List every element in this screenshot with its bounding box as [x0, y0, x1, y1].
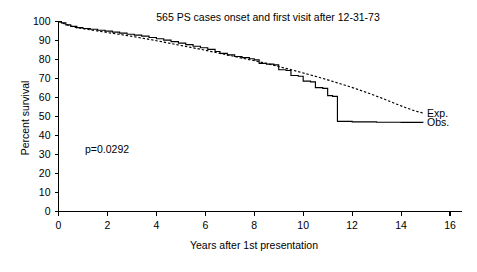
series-line-observed: [59, 22, 424, 123]
y-tick-label: 90: [39, 34, 51, 46]
x-tick-label: 2: [105, 219, 111, 231]
y-tick-label: 80: [39, 53, 51, 65]
series-line-expected: [59, 22, 424, 114]
x-tick-label: 12: [346, 219, 358, 231]
x-tick-label: 8: [251, 219, 257, 231]
x-tick-label: 16: [444, 219, 456, 231]
p-value-annotation: p=0.0292: [85, 143, 129, 155]
y-tick-label: 10: [39, 186, 51, 198]
x-axis-ticks: 0246810121416: [56, 212, 456, 231]
y-axis-title: Percent survival: [19, 81, 31, 156]
chart-title: 565 PS cases onset and first visit after…: [156, 11, 380, 23]
y-tick-label: 40: [39, 129, 51, 141]
x-tick-label: 0: [56, 219, 62, 231]
y-tick-label: 20: [39, 167, 51, 179]
legend-label-observed: Obs.: [427, 116, 449, 128]
y-tick-label: 30: [39, 148, 51, 160]
x-tick-label: 10: [297, 219, 309, 231]
y-tick-label: 70: [39, 72, 51, 84]
y-tick-label: 50: [39, 110, 51, 122]
survival-chart: 565 PS cases onset and first visit after…: [0, 0, 477, 272]
y-tick-label: 60: [39, 91, 51, 103]
x-axis-title: Years after 1st presentation: [190, 239, 318, 251]
chart-canvas: 565 PS cases onset and first visit after…: [0, 0, 477, 272]
y-tick-label: 0: [45, 205, 51, 217]
y-axis-ticks: 0102030405060708090100: [33, 15, 59, 217]
x-tick-label: 4: [153, 219, 159, 231]
x-tick-label: 6: [202, 219, 208, 231]
x-tick-label: 14: [395, 219, 407, 231]
y-tick-label: 100: [33, 15, 51, 27]
